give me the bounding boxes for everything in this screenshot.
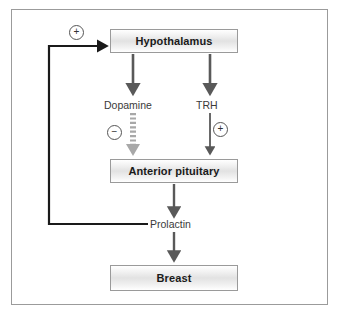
- diagram-canvas: Hypothalamus Anterior pituitary Breast D…: [0, 0, 340, 317]
- node-anterior-pituitary[interactable]: Anterior pituitary: [110, 159, 238, 183]
- label-trh: TRH: [196, 99, 218, 111]
- node-hypothalamus-label: Hypothalamus: [136, 35, 213, 47]
- node-breast[interactable]: Breast: [110, 265, 238, 291]
- node-hypothalamus[interactable]: Hypothalamus: [110, 29, 238, 53]
- dopamine-minus-sign-icon: −: [107, 125, 122, 140]
- node-anterior-pituitary-label: Anterior pituitary: [128, 165, 219, 177]
- edge-dopamine-pituitary: [126, 113, 140, 156]
- label-prolactin: Prolactin: [150, 218, 191, 230]
- label-dopamine: Dopamine: [104, 99, 152, 111]
- trh-plus-sign-icon: +: [213, 122, 228, 137]
- node-breast-label: Breast: [157, 272, 192, 284]
- feedback-plus-sign-icon: +: [69, 25, 84, 40]
